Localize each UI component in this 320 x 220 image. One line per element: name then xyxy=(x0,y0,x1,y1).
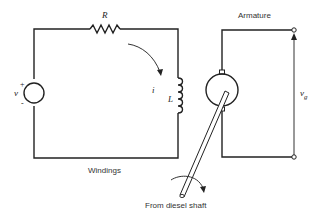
armature-circuit xyxy=(206,28,297,159)
source-label: v xyxy=(14,88,18,98)
windings-label: Windings xyxy=(88,166,121,175)
terminal-bottom-icon xyxy=(292,155,296,159)
shaft-end-icon xyxy=(180,194,184,197)
wire-top-left xyxy=(34,29,90,79)
vg-arrowhead-icon xyxy=(291,33,297,40)
vg-sub: g xyxy=(304,93,308,101)
shaft-label: From diesel shaft xyxy=(145,201,207,210)
diesel-shaft xyxy=(171,91,229,198)
windings-circuit xyxy=(24,25,183,158)
armature-label: Armature xyxy=(238,11,271,20)
minus-label: - xyxy=(21,99,24,108)
current-arrow xyxy=(128,44,163,76)
current-label: i xyxy=(152,85,155,95)
resistor-label: R xyxy=(101,10,108,20)
vg-label: vg xyxy=(300,88,308,101)
rotation-arrowhead-icon xyxy=(200,186,206,193)
inductor-label: L xyxy=(167,94,173,104)
voltage-source-icon xyxy=(24,83,44,103)
wire-bottom xyxy=(34,106,178,158)
circuit-diagram: R i L + v - Windings Armature From diese… xyxy=(0,0,320,220)
terminal-top-icon xyxy=(292,28,296,32)
current-arrowhead-icon xyxy=(157,69,163,76)
wire-top-right xyxy=(120,29,178,78)
wire-armature-top xyxy=(222,30,293,72)
inductor-icon xyxy=(178,78,183,113)
wire-armature-bottom xyxy=(222,111,293,157)
current-arc xyxy=(128,44,160,72)
resistor-icon xyxy=(90,25,120,33)
plus-label: + xyxy=(20,80,25,89)
